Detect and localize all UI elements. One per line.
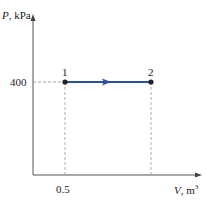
y-axis-label: P, kPa: [2, 10, 31, 21]
point-2-label: 2: [148, 67, 154, 78]
x-axis-label: V, m3: [174, 184, 198, 196]
x-axis-unit: , m: [181, 184, 195, 196]
x-axis-exponent: 3: [195, 183, 199, 191]
point-1-label: 1: [62, 67, 68, 78]
state-point-2: [148, 79, 153, 84]
x-tick-0.5: 0.5: [56, 184, 70, 195]
pv-diagram: [0, 0, 207, 201]
y-tick-400: 400: [10, 77, 27, 88]
state-point-1: [62, 79, 67, 84]
x-axis-arrow-icon: [195, 173, 202, 178]
x-axis-var: V: [174, 184, 181, 196]
y-axis-arrow-icon: [31, 14, 36, 21]
